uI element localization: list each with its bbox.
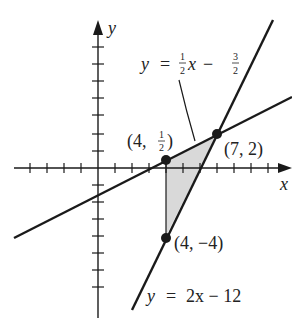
- y-axis-label: y: [106, 18, 116, 38]
- point-label-7-2: (7, 2): [224, 139, 263, 160]
- y-axis-arrow-icon: [93, 20, 103, 35]
- svg-text:1: 1: [159, 129, 164, 140]
- svg-text:3: 3: [233, 51, 238, 62]
- point-label-4-neg4: (4, −4): [174, 233, 223, 254]
- point-4-half: [161, 155, 171, 165]
- equation-label-two: y = 2x − 12: [145, 286, 241, 306]
- equation-label-half: y = 1 2 x − 3 2: [139, 51, 239, 76]
- svg-text:x: x: [187, 54, 196, 74]
- svg-text:−: −: [203, 54, 213, 74]
- svg-text:(4,: (4,: [127, 131, 147, 152]
- svg-text:y: y: [145, 286, 155, 306]
- svg-text:=: =: [160, 54, 170, 74]
- x-axis-arrow-icon: [278, 163, 292, 173]
- point-4-neg4: [161, 233, 171, 243]
- point-7-2: [212, 129, 222, 139]
- svg-text:): ): [167, 131, 173, 152]
- svg-text:2: 2: [180, 65, 185, 76]
- svg-text:1: 1: [180, 51, 185, 62]
- svg-text:2: 2: [159, 142, 164, 153]
- label-leader-line: [179, 80, 195, 141]
- x-axis-label: x: [279, 174, 288, 194]
- point-label-4-half: (4, 1 2 ): [127, 129, 173, 153]
- svg-text:2x − 12: 2x − 12: [186, 286, 241, 306]
- coordinate-plane: y x y = 1 2 x − 3 2 (4, 1 2 ) (7, 2) (4,…: [0, 0, 292, 323]
- svg-text:y: y: [139, 54, 149, 74]
- svg-text:2: 2: [233, 65, 238, 76]
- svg-text:=: =: [166, 286, 176, 306]
